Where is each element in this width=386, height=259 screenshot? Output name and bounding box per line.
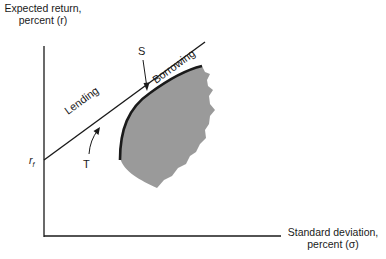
y-axis-label-line2: percent (r) — [3, 14, 83, 26]
y-axis-label: Expected return, percent (r) — [3, 2, 83, 26]
frontier-label: T — [83, 158, 90, 170]
diagram-canvas — [0, 0, 386, 259]
x-axis-label-line2: percent (σ) — [281, 238, 385, 250]
frontier-arrow — [89, 130, 98, 154]
x-axis-label: Standard deviation, percent (σ) — [281, 226, 385, 250]
tangency-point-label: S — [138, 45, 145, 57]
frontier-arrowhead-icon — [94, 127, 101, 135]
risk-free-subscript: f — [33, 161, 35, 168]
x-axis-label-line1: Standard deviation, — [281, 226, 385, 238]
risk-free-rate-label: rf — [29, 154, 34, 171]
capital-market-line-diagram: Expected return, percent (r) Standard de… — [0, 0, 386, 259]
feasible-portfolio-region — [120, 66, 215, 188]
y-axis-label-line1: Expected return, — [3, 2, 83, 14]
